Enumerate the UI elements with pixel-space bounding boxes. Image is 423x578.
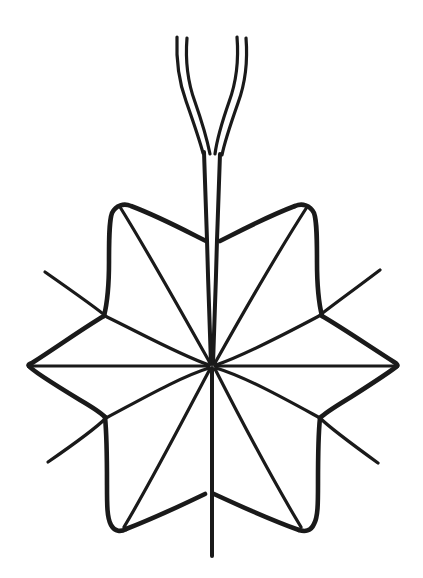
vein-to-upper-right-lobe <box>215 207 307 363</box>
stem-left-stroke <box>204 152 211 364</box>
left-stem-branch-outer-line <box>177 37 203 153</box>
outline-bottom-left-edge <box>126 494 205 529</box>
vein-to-upper-left-lobe <box>120 207 210 363</box>
stem-group <box>177 37 247 364</box>
leaf-illustration: Palmately lobed leaf with forked petiole… <box>0 0 423 578</box>
leaf-veins <box>29 207 397 556</box>
outline-left-lower-flank <box>29 366 105 417</box>
outline-lower-right-lobe <box>299 418 320 531</box>
vein-to-lower-left-lobe <box>124 369 210 527</box>
outline-upper-left-lobe <box>104 205 206 316</box>
outline-right-upper-flank <box>322 316 397 366</box>
outline-lower-left-lobe <box>105 417 126 531</box>
outline-right-lower-flank <box>320 366 397 418</box>
vein-to-lower-right-lobe <box>215 369 301 527</box>
figure-canvas: Palmately lobed leaf with forked petiole… <box>0 0 423 578</box>
stem-right-stroke <box>213 154 220 364</box>
outline-left-upper-flank <box>29 316 104 366</box>
outline-top-right-edge <box>220 206 295 241</box>
right-stem-branch-outer-line <box>222 38 247 155</box>
